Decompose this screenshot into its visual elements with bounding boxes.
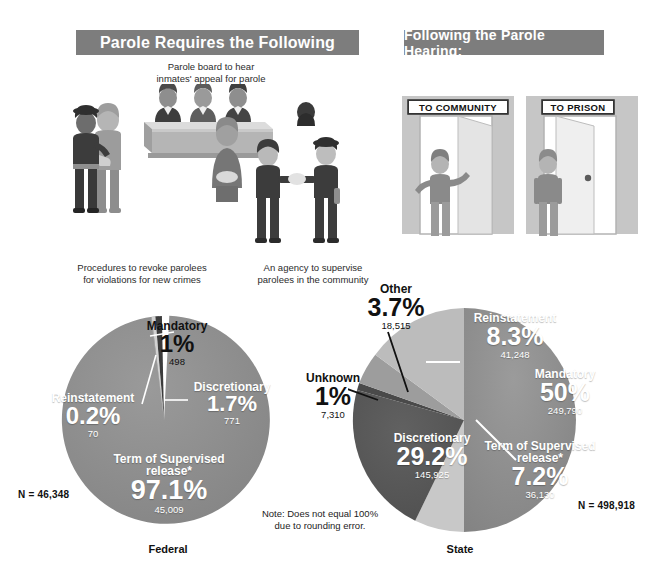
state-label-mandatory: Mandatory 50% 249,790: [510, 368, 620, 415]
federal-label-mandatory: Mandatory 1% 498: [122, 320, 232, 366]
federal-chart-title: Federal: [128, 543, 208, 555]
rounding-note-line1: Note: Does not equal 100%: [222, 508, 418, 520]
state-mandatory-pct: 50%: [510, 380, 620, 406]
federal-term-pct: 97.1%: [102, 477, 236, 505]
caption-agency-line1: An agency to supervise: [238, 262, 388, 274]
caption-parole-board-line1: Parole board to hear: [132, 61, 290, 73]
board-member-1: [155, 84, 181, 122]
caption-revoke-line1: Procedures to revoke parolees: [62, 262, 222, 274]
door-to-community: [402, 96, 514, 234]
federal-mandatory-pct: 1%: [122, 332, 232, 356]
caption-agency-supervise: An agency to supervise parolees in the c…: [238, 262, 388, 285]
federal-label-discretionary: Discretionary 1.7% 771: [178, 381, 286, 425]
door-sign-to-prison: TO PRISON: [542, 100, 614, 114]
federal-label-reinstatement: Reinstatement 0.2% 70: [38, 392, 148, 438]
parolee-handshake: [255, 139, 308, 243]
illustration-doors: [398, 92, 660, 242]
federal-label-term-supervised-release: Term of Supervised release* 97.1% 45,009: [102, 453, 236, 515]
inmate-standing: [212, 117, 242, 202]
rounding-note-line2: due to rounding error.: [222, 520, 418, 532]
state-reinstatement-pct: 8.3%: [450, 324, 580, 350]
caption-parole-board: Parole board to hear inmates' appeal for…: [132, 61, 290, 84]
parole-officer-handshake: [286, 137, 340, 243]
federal-reinstatement-value: 70: [38, 429, 148, 439]
state-other-pct: 3.7%: [356, 295, 436, 321]
federal-discretionary-value: 771: [178, 416, 286, 426]
state-total-n: N = 498,918: [578, 500, 635, 511]
illustration-parole-hearing: [60, 84, 380, 262]
state-discretionary-value: 145,925: [372, 470, 492, 480]
state-label-reinstatement: Reinstatement 8.3% 41,248: [450, 312, 580, 359]
caption-parole-board-line2: inmates' appeal for parole: [132, 73, 290, 85]
state-term-value: 36,130: [478, 490, 602, 500]
federal-reinstatement-pct: 0.2%: [38, 404, 148, 428]
state-unknown-pct: 1%: [293, 384, 373, 410]
federal-term-value: 45,009: [102, 505, 236, 515]
door-sign-to-community: TO COMMUNITY: [408, 100, 508, 114]
audience-seated: [297, 102, 315, 126]
board-member-3: [225, 84, 251, 122]
rounding-note: Note: Does not equal 100% due to roundin…: [222, 508, 418, 532]
state-discretionary-pct: 29.2%: [372, 444, 492, 470]
state-label-term-supervised-release: Term of Supervised release* 7.2% 36,130: [478, 440, 602, 500]
board-member-2: [190, 84, 216, 122]
state-label-unknown: Unknown 1% 7,310: [293, 372, 373, 419]
caption-revoke-procedures: Procedures to revoke parolees for violat…: [62, 262, 222, 285]
banner-parole-requires: Parole Requires the Following: [76, 30, 359, 55]
state-term-pct: 7.2%: [478, 464, 602, 490]
state-reinstatement-value: 41,248: [450, 350, 580, 360]
federal-discretionary-pct: 1.7%: [178, 393, 286, 415]
caption-revoke-line2: for violations for new crimes: [62, 274, 222, 286]
state-unknown-value: 7,310: [293, 410, 373, 420]
state-other-value: 18,515: [356, 321, 436, 331]
state-label-discretionary: Discretionary 29.2% 145,925: [372, 432, 492, 479]
state-mandatory-value: 249,790: [510, 406, 620, 416]
state-label-other: Other 3.7% 18,515: [356, 283, 436, 330]
federal-mandatory-value: 498: [122, 357, 232, 367]
banner-following-hearing: Following the Parole Hearing:: [404, 30, 604, 55]
federal-total-n: N = 46,348: [18, 489, 69, 500]
state-chart-title: State: [420, 543, 500, 555]
